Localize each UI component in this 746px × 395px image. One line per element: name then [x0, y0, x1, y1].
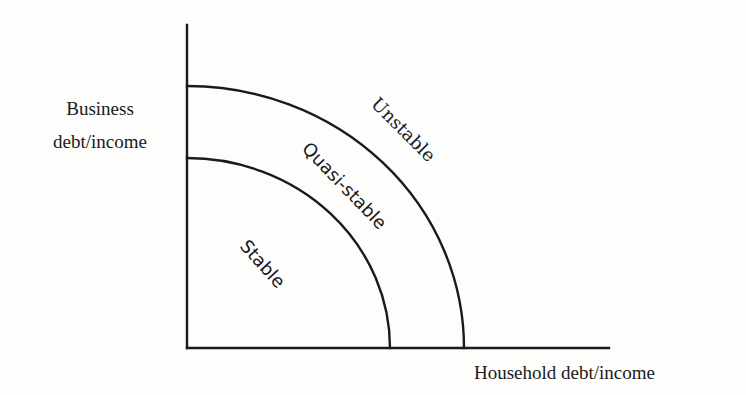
outer-boundary-curve — [187, 86, 464, 348]
x-axis-label: Household debt/income — [474, 356, 655, 389]
region-label-quasi-stable: Quasi-stable — [298, 138, 391, 233]
y-axis-label: Business debt/income — [30, 92, 170, 158]
stability-regions-diagram: Stable Quasi-stable Unstable — [0, 0, 746, 395]
y-axis-label-line2: debt/income — [30, 125, 170, 158]
y-axis-label-line1: Business — [30, 92, 170, 125]
region-label-unstable: Unstable — [367, 93, 440, 166]
region-label-stable: Stable — [236, 235, 290, 291]
